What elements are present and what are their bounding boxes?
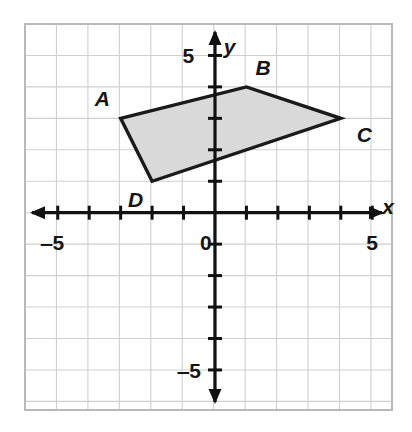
y-tick-label-neg5: ‒5 (177, 360, 200, 381)
y-axis-label: y (224, 36, 236, 57)
x-tick-label-5: 5 (366, 232, 378, 253)
vertex-label-b: B (255, 57, 270, 78)
graph-figure: x y 0 ‒5 5 5 ‒5 A B C D (0, 0, 412, 432)
grid-background (25, 24, 392, 410)
vertex-label-d: D (128, 189, 143, 210)
x-axis-label: x (382, 196, 394, 217)
origin-label: 0 (200, 232, 212, 253)
coordinate-plane-canvas (0, 0, 412, 432)
x-tick-label-neg5: ‒5 (41, 232, 64, 253)
vertex-label-c: C (357, 124, 372, 145)
grid-lines (25, 24, 392, 410)
y-tick-label-5: 5 (183, 45, 195, 66)
vertex-label-a: A (95, 88, 110, 109)
